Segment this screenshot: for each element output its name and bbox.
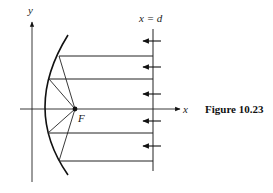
- parabolic-reflector-diagram: y x x = d F Figure 10.23: [0, 0, 273, 193]
- incoming-direction-arrows: [143, 41, 161, 146]
- y-axis-label: y: [27, 4, 33, 16]
- x-axis-label: x: [182, 103, 188, 115]
- y-axis: y: [27, 4, 33, 182]
- line-x-equals-d: x = d: [138, 12, 163, 171]
- focus-label: F: [77, 112, 85, 124]
- line-x-equals-d-label: x = d: [138, 12, 163, 24]
- figure-caption: Figure 10.23: [205, 103, 264, 115]
